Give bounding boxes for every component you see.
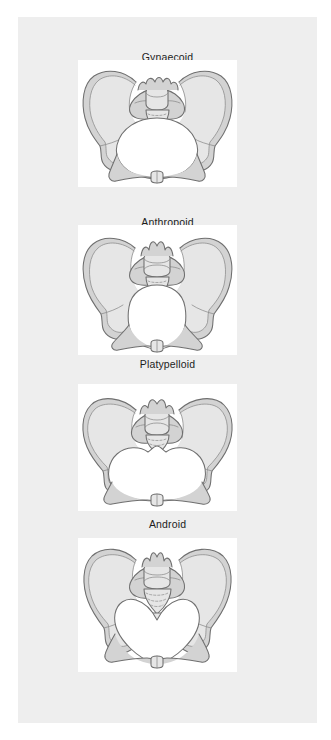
pelvis-inlet-icon xyxy=(78,225,237,355)
figure-root: Gynaecoid xyxy=(0,0,331,740)
pelvis-inlet-icon xyxy=(78,384,237,511)
panel-label-platypelloid: Platypelloid xyxy=(18,358,317,371)
pelvis-illustration-gynaecoid xyxy=(78,60,237,187)
panel-label-android: Android xyxy=(18,518,317,531)
pelvis-inlet-icon xyxy=(78,60,237,187)
pelvis-illustration-platypelloid xyxy=(78,384,237,511)
pelvis-illustration-android xyxy=(78,538,237,672)
figure-plate: Gynaecoid xyxy=(18,17,317,723)
pelvis-illustration-anthropoid xyxy=(78,225,237,355)
pelvis-inlet-icon xyxy=(78,538,237,672)
